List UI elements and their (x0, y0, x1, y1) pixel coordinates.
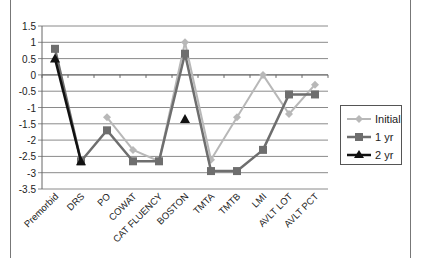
y-tick-label: -3 (27, 168, 36, 179)
square-marker-icon (181, 50, 189, 58)
y-tick-label: -3.5 (19, 184, 37, 195)
y-tick-label: -0.5 (19, 86, 37, 97)
x-category-label: PO (95, 191, 112, 208)
square-marker-icon (103, 126, 111, 134)
square-marker-icon (345, 130, 375, 144)
square-marker-icon (51, 45, 59, 53)
legend: Initial 1 yr 2 yr (340, 105, 402, 165)
y-tick-label: 1.5 (22, 21, 36, 32)
square-marker-icon (233, 167, 241, 175)
square-marker-icon (259, 146, 267, 154)
legend-item-initial: Initial (345, 112, 401, 126)
x-category-label: TMTB (216, 191, 242, 217)
x-category-label: TMTA (191, 190, 217, 216)
legend-label: 1 yr (375, 130, 393, 144)
square-marker-icon (207, 167, 215, 175)
y-tick-label: 0 (30, 70, 36, 81)
legend-item-2yr: 2 yr (345, 148, 401, 162)
legend-item-1yr: 1 yr (345, 130, 401, 144)
y-tick-label: -2 (27, 135, 36, 146)
square-marker-icon (129, 157, 137, 165)
x-category-label: DRS (64, 191, 86, 213)
series-line-2-yr (55, 59, 81, 162)
triangle-marker-icon (180, 114, 190, 123)
series-line-initial (107, 42, 315, 161)
y-tick-label: -2.5 (19, 151, 37, 162)
legend-label: Initial (375, 112, 401, 126)
legend-label: 2 yr (375, 148, 393, 162)
triangle-marker-icon (345, 148, 375, 162)
y-tick-label: 0.5 (22, 54, 36, 65)
series-line-1-yr (55, 49, 315, 171)
square-marker-icon (311, 90, 319, 98)
y-tick-label: -1 (27, 103, 36, 114)
y-tick-label: 1 (30, 37, 36, 48)
diamond-marker-icon (345, 112, 375, 126)
square-marker-icon (155, 157, 163, 165)
x-category-label: LMI (249, 191, 268, 210)
x-category-label: Premorbid (22, 191, 61, 230)
square-marker-icon (285, 90, 293, 98)
diamond-marker-icon (181, 38, 189, 46)
y-tick-label: -1.5 (19, 119, 37, 130)
